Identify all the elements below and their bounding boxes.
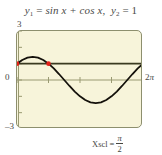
plot-area [16,30,142,128]
title-y1-expression: sin x + cos x [45,4,102,16]
xscl-label: Xscl [92,139,108,149]
xscl-denominator: 2 [116,145,122,154]
intersection-point [46,61,51,66]
y-axis-max-label: 3 [17,19,22,29]
title-y2-subscript: 2 [116,10,120,18]
xscl-caption: Xscl = π 2 [92,134,123,153]
title-y1-subscript: 1 [30,10,34,18]
title-y1-equals: = [36,4,42,16]
y-axis-zero-label: 0 [5,72,10,82]
pi-symbol-icon: π [150,72,155,82]
xscl-fraction: π 2 [116,134,122,153]
xscl-numerator: π [116,134,122,143]
graphing-calculator-figure: y1 = sin x + cos x, y2 = 1 3 0 –3 2π [0,0,162,155]
xscl-equals: = [110,139,115,149]
x-axis-max-label: 2π [145,72,154,82]
title-separator: , [102,4,105,16]
title-y2-expression: 1 [132,4,138,16]
y-axis-min-label: –3 [5,121,14,131]
figure-title: y1 = sin x + cos x, y2 = 1 [0,4,162,18]
plot-canvas [17,31,142,128]
title-y2-equals: = [122,4,128,16]
